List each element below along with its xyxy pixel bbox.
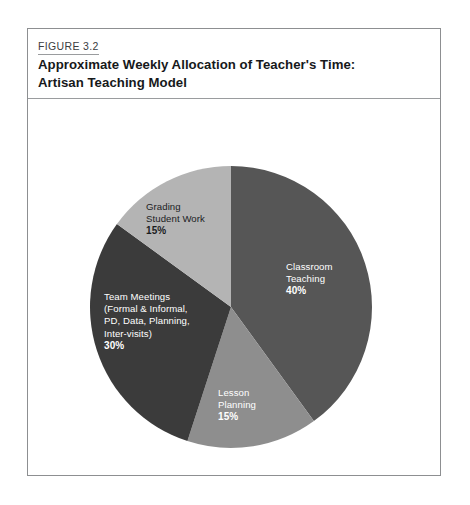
slice-label-line: Student Work (146, 213, 205, 225)
figure-title-line-1: Approximate Weekly Allocation of Teacher… (38, 56, 428, 74)
slice-percent-lesson-planning: 15% (218, 411, 256, 423)
pie-chart: Classroom Teaching 40% Lesson Planning 1… (28, 99, 440, 475)
slice-label-classroom-teaching: Classroom Teaching 40% (286, 261, 333, 298)
slice-label-line: Grading (146, 201, 205, 213)
figure-number-label: FIGURE 3.2 (38, 40, 99, 55)
figure-container: FIGURE 3.2 Approximate Weekly Allocation… (27, 28, 441, 476)
figure-title: Approximate Weekly Allocation of Teacher… (38, 56, 428, 91)
slice-label-line: Classroom (286, 261, 333, 273)
slice-label-line: (Formal & Informal, (104, 303, 190, 315)
slice-percent-classroom-teaching: 40% (286, 285, 333, 297)
slice-label-team-meetings: Team Meetings (Formal & Informal, PD, Da… (104, 291, 190, 352)
figure-header: FIGURE 3.2 Approximate Weekly Allocation… (28, 29, 440, 99)
figure-title-line-2: Artisan Teaching Model (38, 74, 428, 92)
figure-number-wrap: FIGURE 3.2 (38, 36, 99, 55)
slice-percent-grading-student-work: 15% (146, 225, 205, 237)
slice-label-grading-student-work: Grading Student Work 15% (146, 201, 205, 238)
slice-label-line: Team Meetings (104, 291, 190, 303)
slice-label-line: PD, Data, Planning, (104, 315, 190, 327)
slice-label-lesson-planning: Lesson Planning 15% (218, 387, 256, 424)
slice-label-line: Inter-visits) (104, 328, 190, 340)
slice-label-line: Planning (218, 399, 256, 411)
slice-label-line: Teaching (286, 273, 333, 285)
slice-percent-team-meetings: 30% (104, 340, 190, 352)
slice-label-line: Lesson (218, 387, 256, 399)
